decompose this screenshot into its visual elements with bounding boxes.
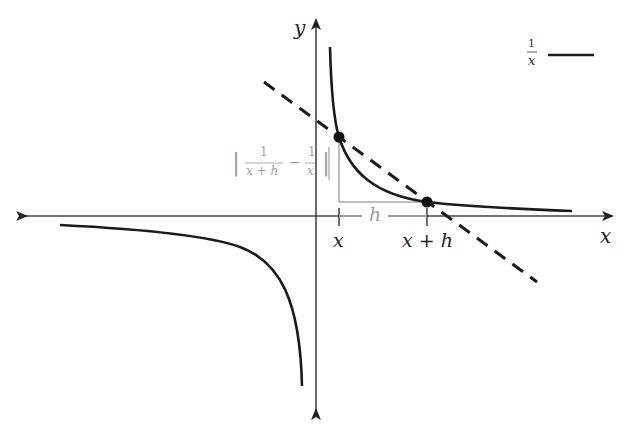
rise-frac2-num: 1 bbox=[308, 145, 316, 159]
legend-numerator: 1 bbox=[528, 37, 535, 50]
diagram-canvas: y x x x + h h 1 x | 1 x + h − 1 x | bbox=[0, 0, 626, 433]
rise-frac2-den: x bbox=[307, 164, 314, 178]
curve-negative-branch bbox=[60, 225, 302, 386]
rise-right-bar: | bbox=[322, 148, 330, 176]
point-x-plus-h bbox=[422, 197, 433, 208]
legend-denominator: x bbox=[528, 53, 535, 68]
rise-frac1-den: x + h bbox=[246, 164, 278, 178]
rise-left-bar: | bbox=[232, 148, 240, 176]
curve-positive-branch bbox=[330, 47, 572, 211]
y-axis-label: y bbox=[294, 16, 305, 40]
rise-label: | 1 x + h − 1 x | bbox=[228, 146, 328, 186]
rise-minus: − bbox=[289, 154, 301, 170]
tick-label-x: x bbox=[333, 229, 344, 251]
run-label-h: h bbox=[369, 203, 381, 225]
rise-frac1-num: 1 bbox=[260, 145, 268, 159]
x-axis-label: x bbox=[600, 224, 611, 248]
point-x bbox=[334, 132, 345, 143]
tick-label-x-plus-h: x + h bbox=[402, 229, 453, 251]
